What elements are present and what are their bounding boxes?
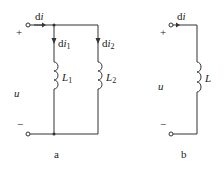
terminal-top-b xyxy=(169,23,173,27)
terminal-bottom-a xyxy=(26,132,30,136)
label-di2: di2 xyxy=(102,37,115,51)
label-L: L xyxy=(204,72,211,84)
arrow-head-b xyxy=(176,23,180,28)
circuit-diagram: di + u − di1 di2 L1 L2 a di + u − L b xyxy=(0,0,224,173)
label-u-b: u xyxy=(158,80,164,92)
label-minus-a: − xyxy=(17,118,23,130)
label-di-total: di xyxy=(35,10,44,22)
inductor-L2 xyxy=(98,62,102,89)
terminal-bottom-b xyxy=(169,132,173,136)
label-minus-b: − xyxy=(160,118,166,130)
arrow-head-branch2 xyxy=(96,38,101,44)
panel-b xyxy=(169,23,201,137)
junction-bottom-a xyxy=(53,133,56,136)
caption-b: b xyxy=(181,148,187,160)
arrow-head-branch1 xyxy=(52,38,57,44)
inductor-L xyxy=(197,62,201,92)
label-di1: di1 xyxy=(58,37,71,51)
label-plus-b: + xyxy=(160,26,166,38)
caption-a: a xyxy=(54,148,59,160)
label-L1: L1 xyxy=(61,71,72,85)
arrow-head-total xyxy=(42,23,46,28)
inductor-L1 xyxy=(54,62,58,89)
label-plus-a: + xyxy=(16,26,22,38)
terminal-top-a xyxy=(26,23,30,27)
label-di-b: di xyxy=(177,10,186,22)
label-L2: L2 xyxy=(105,71,116,85)
label-u-a: u xyxy=(14,87,20,99)
